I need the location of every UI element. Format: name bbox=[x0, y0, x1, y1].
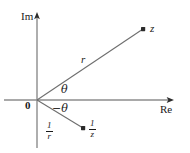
point-marker-z bbox=[141, 27, 145, 31]
complex-plane-figure: Im Re 0 z r θ −θ 1 r 1 z bbox=[0, 0, 190, 153]
imaginary-axis bbox=[34, 12, 40, 148]
point-marker-z-inverse bbox=[81, 126, 85, 130]
point-label-one-over-z: 1 z bbox=[89, 119, 96, 140]
ray-to-z bbox=[37, 29, 143, 100]
real-axis-label: Re bbox=[160, 104, 172, 115]
point-label-z: z bbox=[150, 23, 154, 34]
imaginary-axis-label: Im bbox=[21, 11, 33, 22]
radius-label-one-over-r: 1 r bbox=[46, 121, 53, 142]
origin-label: 0 bbox=[25, 100, 31, 111]
one-over-r-denominator: r bbox=[46, 132, 53, 141]
angle-label-negative-theta: −θ bbox=[52, 103, 68, 114]
one-over-r-numerator: 1 bbox=[46, 121, 53, 130]
one-over-z-numerator: 1 bbox=[89, 119, 96, 128]
one-over-z-denominator: z bbox=[89, 130, 96, 139]
radius-label-r: r bbox=[81, 54, 85, 65]
angle-label-theta: θ bbox=[61, 84, 68, 95]
